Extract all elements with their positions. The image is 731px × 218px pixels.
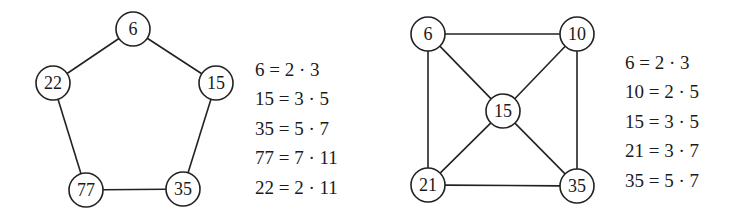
edge — [515, 46, 565, 98]
edge — [103, 189, 166, 190]
equation: 10 = 2 · 5 — [625, 82, 699, 101]
equation: 35 = 5 · 7 — [625, 171, 699, 190]
node-label: 6 — [129, 19, 138, 39]
graph-node-6: 6 — [116, 12, 150, 46]
equation: 15 = 3 · 5 — [255, 89, 329, 108]
graph-node-10: 10 — [560, 17, 594, 51]
graph-node-35: 35 — [166, 172, 200, 206]
equation: 15 = 3 · 5 — [625, 112, 699, 131]
left-graph-nodes: 615357722 — [36, 12, 233, 207]
node-label: 10 — [568, 24, 586, 44]
graph-canvas: 615357722 610152135 — [0, 0, 731, 218]
graph-node-77: 77 — [69, 173, 103, 207]
edge — [445, 185, 560, 186]
equation: 21 = 3 · 7 — [625, 141, 699, 160]
graph-node-22: 22 — [36, 66, 70, 100]
left-graph-edges — [58, 38, 211, 190]
graph-node-15: 15 — [199, 66, 233, 100]
graph-node-21: 21 — [411, 168, 445, 202]
graph-node-15: 15 — [486, 94, 520, 128]
equation: 77 = 7 · 11 — [255, 148, 338, 167]
edge — [440, 123, 491, 173]
graph-node-35: 35 — [560, 169, 594, 203]
edge — [188, 99, 211, 173]
node-label: 22 — [44, 73, 62, 93]
node-label: 77 — [77, 180, 95, 200]
edge — [67, 39, 119, 74]
node-label: 35 — [174, 179, 192, 199]
node-label: 21 — [419, 175, 437, 195]
right-graph-nodes: 610152135 — [411, 17, 594, 203]
edge — [58, 99, 81, 174]
edge — [147, 38, 202, 73]
edge — [440, 46, 491, 99]
node-label: 15 — [207, 73, 225, 93]
equation: 6 = 2 · 3 — [625, 53, 690, 72]
equation: 35 = 5 · 7 — [255, 119, 329, 138]
node-label: 15 — [494, 101, 512, 121]
equation: 6 = 2 · 3 — [255, 60, 320, 79]
node-label: 6 — [424, 24, 433, 44]
node-label: 35 — [568, 176, 586, 196]
graph-node-6: 6 — [411, 17, 445, 51]
equation: 22 = 2 · 11 — [255, 178, 338, 197]
edge — [515, 123, 565, 174]
